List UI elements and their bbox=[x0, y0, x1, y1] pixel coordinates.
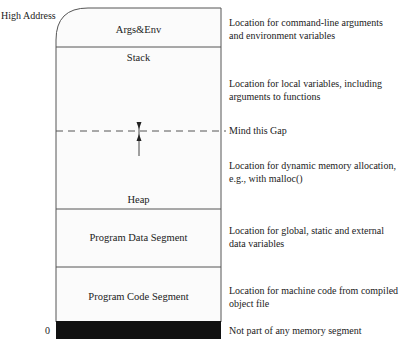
zero-address-label: 0 bbox=[45, 325, 50, 337]
gap-label: Mind this Gap bbox=[229, 125, 287, 138]
description-stack: Location for local variables, including … bbox=[229, 78, 382, 103]
description-heap: Location for dynamic memory allocation, … bbox=[229, 160, 396, 185]
high-address-label: High Address bbox=[1, 10, 56, 22]
description-program-data: Location for global, static and external… bbox=[229, 225, 384, 250]
segment-label-stack: Stack bbox=[56, 52, 221, 63]
segment-label-program-code: Program Code Segment bbox=[56, 291, 221, 302]
segment-label-args-env: Args&Env bbox=[56, 24, 221, 35]
segment-label-heap: Heap bbox=[56, 194, 221, 205]
description-program-code: Location for machine code from compiled … bbox=[229, 285, 398, 310]
description-null-segment: Not part of any memory segment bbox=[229, 325, 361, 338]
segment-label-program-data: Program Data Segment bbox=[56, 232, 221, 243]
description-args-env: Location for command-line arguments and … bbox=[229, 17, 383, 42]
null-segment-bar bbox=[56, 321, 221, 339]
